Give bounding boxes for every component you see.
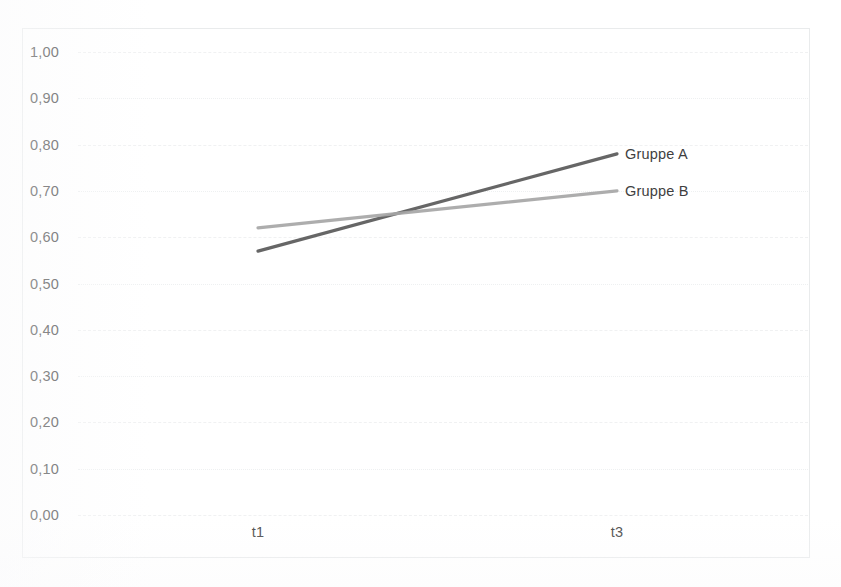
series-layer: [0, 0, 841, 587]
legend-item-label: Gruppe B: [625, 183, 689, 199]
line-chart: 1,000,900,800,700,600,500,400,300,200,10…: [0, 0, 841, 587]
legend-item-label: Gruppe A: [625, 146, 688, 162]
series-line: [258, 154, 617, 251]
series-line: [258, 191, 617, 228]
